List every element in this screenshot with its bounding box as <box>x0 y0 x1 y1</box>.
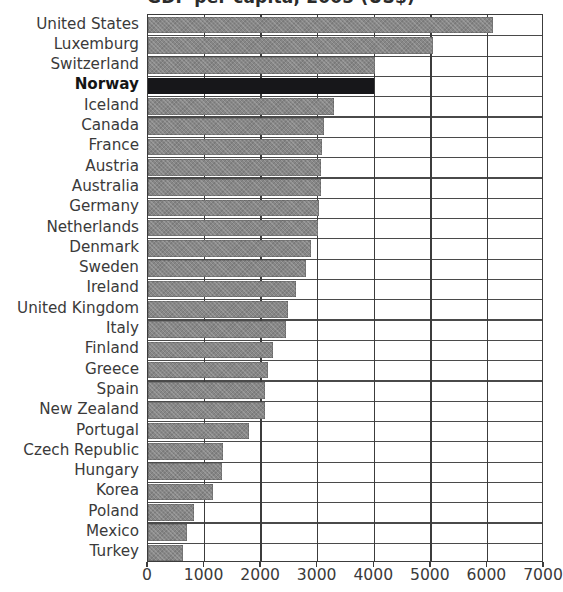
category-label: Luxemburg <box>54 34 139 55</box>
category-label: Korea <box>96 480 139 501</box>
category-label: Hungary <box>74 460 139 481</box>
category-label: Norway <box>75 74 139 95</box>
value-axis-tick-labels: 01000200030004000500060007000 <box>0 566 562 592</box>
bar <box>148 179 321 196</box>
bar <box>148 504 194 521</box>
category-label: Australia <box>72 176 139 197</box>
bar <box>148 443 223 460</box>
category-label: Germany <box>69 196 139 217</box>
category-label: Iceland <box>84 95 139 116</box>
category-label: Turkey <box>90 541 139 562</box>
bar <box>148 423 249 440</box>
category-label: Austria <box>85 156 139 177</box>
bar <box>148 362 268 379</box>
category-label: Switzerland <box>50 54 139 75</box>
bar <box>148 260 306 277</box>
axis-tick-label: 0 <box>142 566 152 584</box>
bar-series <box>148 15 542 561</box>
category-label: Spain <box>97 379 139 400</box>
category-label: France <box>88 135 139 156</box>
bar <box>148 545 183 562</box>
bar <box>148 402 265 419</box>
axis-tick-label: 3000 <box>297 566 337 584</box>
bar <box>148 321 286 338</box>
bar <box>148 220 318 237</box>
category-axis-labels: United StatesLuxemburgSwitzerlandNorwayI… <box>0 14 143 562</box>
bar <box>148 342 273 359</box>
bar <box>148 118 324 135</box>
bar <box>148 524 187 541</box>
category-label: United Kingdom <box>17 298 139 319</box>
axis-tick-label: 2000 <box>240 566 280 584</box>
axis-tick-label: 4000 <box>353 566 393 584</box>
bar <box>148 139 322 156</box>
bar <box>148 37 433 54</box>
bar <box>148 200 319 217</box>
axis-tick-label: 6000 <box>467 566 507 584</box>
bar <box>148 484 213 501</box>
category-label: Greece <box>85 359 139 380</box>
category-label: Netherlands <box>46 217 139 238</box>
axis-tick-label: 5000 <box>410 566 450 584</box>
category-label: Mexico <box>86 521 139 542</box>
bar <box>148 240 311 257</box>
category-label: Finland <box>85 338 139 359</box>
bar <box>148 98 334 115</box>
axis-tick-label: 1000 <box>184 566 224 584</box>
category-label: Sweden <box>79 257 139 278</box>
plot-area <box>147 14 543 562</box>
category-label: Poland <box>88 501 139 522</box>
bar <box>148 281 296 298</box>
bar <box>148 78 374 95</box>
bar <box>148 382 265 399</box>
category-label: Portugal <box>76 420 139 441</box>
category-label: Denmark <box>69 237 139 258</box>
category-label: Czech Republic <box>23 440 139 461</box>
category-label: United States <box>36 14 139 35</box>
bar <box>148 17 493 34</box>
category-label: New Zealand <box>39 399 139 420</box>
bar <box>148 57 375 74</box>
category-label: Italy <box>106 318 139 339</box>
axis-tick-label: 7000 <box>523 566 563 584</box>
bar <box>148 463 222 480</box>
bar <box>148 301 288 318</box>
category-label: Ireland <box>86 277 139 298</box>
category-label: Canada <box>81 115 139 136</box>
chart-title: GDP per capita, 2005 (US$) <box>0 0 562 7</box>
bar <box>148 159 321 176</box>
